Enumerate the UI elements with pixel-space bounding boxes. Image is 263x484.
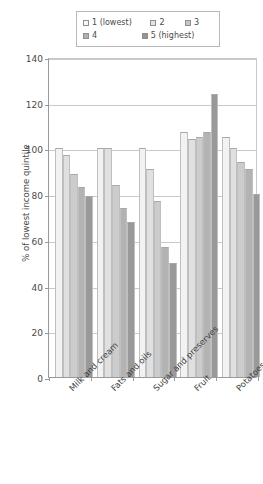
y-tick-label-40: 40 [32,283,43,293]
x-tick-mark [49,377,50,381]
bar[interactable] [139,148,147,377]
x-tick-mark [133,377,134,381]
bar[interactable] [78,187,86,377]
bar-group [139,59,177,377]
legend-swatch-icon-1 [83,20,89,26]
y-tick-label-80: 80 [32,191,43,201]
bar[interactable] [120,208,128,377]
legend-swatch-icon-5 [142,33,148,39]
legend-item-3[interactable]: 3 [185,18,214,27]
bar[interactable] [154,201,162,377]
bar[interactable] [245,169,253,377]
legend-label-5: 5 (highest) [151,31,195,40]
bars-layer [49,59,256,377]
bar[interactable] [146,169,154,377]
legend-item-4[interactable]: 4 [83,31,142,40]
legend-item-1-lowest[interactable]: 1 (lowest) [83,18,150,27]
legend-row-2: 4 5 (highest) [83,29,214,42]
bar-group [55,59,93,377]
legend-label-4: 4 [92,31,97,40]
legend-label-3: 3 [194,18,199,27]
legend-swatch-icon-2 [150,20,156,26]
y-tick-label-0: 0 [37,374,43,384]
x-tick-mark [216,377,217,381]
legend-item-2[interactable]: 2 [150,18,185,27]
bar[interactable] [222,137,230,377]
bar[interactable] [127,222,135,377]
plot-area: 020406080100120140 [48,58,257,378]
x-tick-mark [174,377,175,381]
bar-group [97,59,135,377]
bar[interactable] [97,148,105,377]
bar[interactable] [180,132,188,377]
chart-legend: 1 (lowest) 2 3 4 5 (highest) [76,11,220,47]
legend-item-5-highest[interactable]: 5 (highest) [142,31,214,40]
x-tick-mark [258,377,259,381]
y-tick-label-120: 120 [26,100,43,110]
bar[interactable] [85,196,93,377]
legend-label-1: 1 (lowest) [92,18,132,27]
y-tick-label-60: 60 [32,237,43,247]
bar[interactable] [55,148,63,377]
legend-label-2: 2 [159,18,164,27]
legend-swatch-icon-3 [185,20,191,26]
y-tick-label-20: 20 [32,328,43,338]
bar-group [222,59,260,377]
y-tick-label-140: 140 [26,54,43,64]
bar[interactable] [161,247,169,377]
legend-swatch-icon-4 [83,33,89,39]
bar[interactable] [230,148,238,377]
bar[interactable] [63,155,71,377]
bar[interactable] [253,194,261,377]
x-tick-mark [91,377,92,381]
y-tick-label-100: 100 [26,145,43,155]
legend-row-1: 1 (lowest) 2 3 [83,16,214,29]
bar[interactable] [237,162,245,377]
chart-figure: 1 (lowest) 2 3 4 5 (highest) % of lowest… [0,0,263,484]
bar[interactable] [70,174,78,377]
